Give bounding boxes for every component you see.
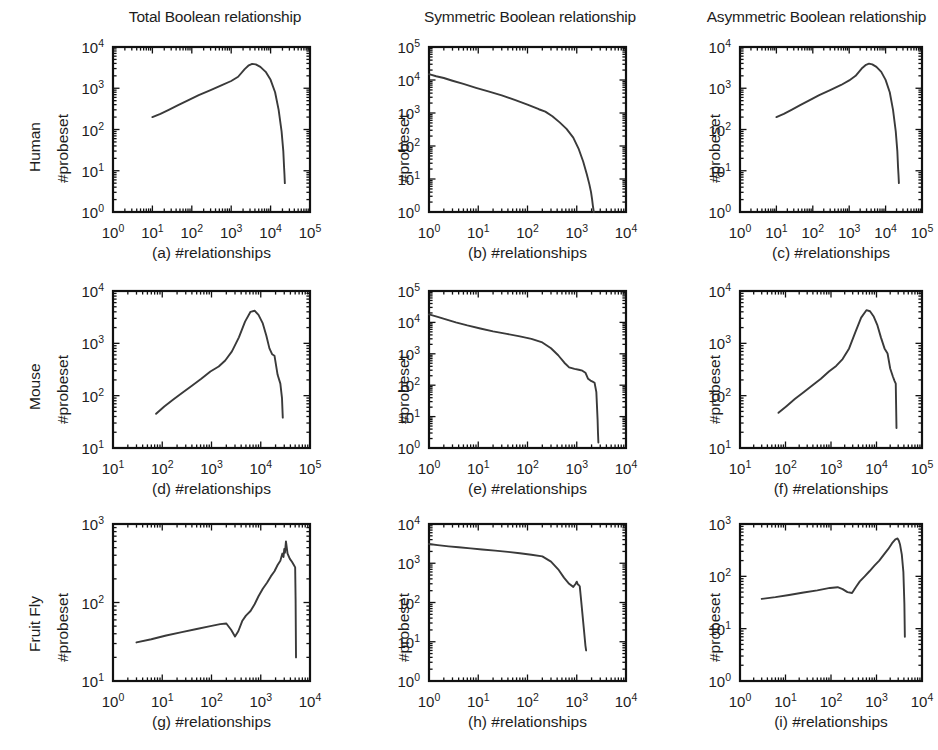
tick-label: 101: [708, 438, 731, 457]
tick-label: 102: [397, 593, 420, 612]
tick-label: 100: [397, 438, 420, 457]
tick-label: 103: [81, 333, 104, 352]
y-tick-labels-a: 100101102103104: [81, 37, 104, 221]
plot-frame-e: [429, 291, 626, 448]
plot-frame-d: [113, 291, 310, 448]
tick-label: 104: [874, 222, 897, 241]
plot-panel-f: 101102103104105101102103104: [680, 277, 938, 486]
tick-label: 100: [418, 691, 441, 710]
tick-label: 100: [418, 458, 441, 477]
minor-ticks-g: [113, 524, 310, 681]
column-title-total: Total Boolean relationship: [100, 8, 330, 26]
column-title-symmetric: Symmetric Boolean relationship: [405, 8, 655, 26]
tick-label: 104: [81, 37, 104, 56]
y-tick-labels-b: 100101102103104105: [397, 37, 420, 221]
tick-label: 105: [299, 458, 322, 477]
tick-label: 101: [774, 691, 797, 710]
tick-label: 101: [397, 407, 420, 426]
tick-label: 104: [249, 458, 272, 477]
y-tick-labels-i: 100101102103: [708, 514, 731, 690]
tick-label: 104: [299, 691, 322, 710]
y-tick-labels-f: 101102103104: [708, 281, 731, 457]
x-tick-labels-h: 100101102103104: [418, 691, 638, 710]
tick-label: 103: [81, 514, 104, 533]
tick-label: 102: [708, 120, 731, 139]
tick-label: 100: [102, 691, 125, 710]
row-label-mouse: Mouse: [26, 363, 44, 410]
minor-ticks-d: [113, 291, 310, 448]
tick-label: 105: [397, 281, 420, 300]
x-tick-labels-b: 100101102103104: [418, 222, 638, 241]
tick-label: 102: [397, 136, 420, 155]
tick-label: 101: [151, 691, 174, 710]
tick-label: 105: [397, 37, 420, 56]
plot-panel-e: 100101102103104100101102103104105: [369, 277, 652, 486]
tick-label: 101: [708, 619, 731, 638]
tick-label: 104: [397, 514, 420, 533]
plot-panel-h: 100101102103104100101102103104: [369, 510, 652, 719]
y-tick-labels-h: 100101102103104: [397, 514, 420, 690]
data-series-g: [137, 541, 297, 657]
plot-panel-c: 100101102103104105100101102103104: [680, 33, 938, 250]
tick-label: 104: [81, 281, 104, 300]
tick-label: 102: [151, 458, 174, 477]
tick-label: 103: [708, 78, 731, 97]
tick-label: 104: [865, 458, 888, 477]
tick-label: 100: [729, 691, 752, 710]
x-tick-labels-d: 101102103104105: [102, 458, 322, 477]
tick-label: 104: [708, 37, 731, 56]
minor-ticks-b: [429, 47, 626, 212]
plot-frame-g: [113, 524, 310, 681]
plot-panel-b: 100101102103104100101102103104105: [369, 33, 652, 250]
tick-label: 104: [708, 281, 731, 300]
tick-label: 102: [516, 222, 539, 241]
tick-label: 103: [820, 458, 843, 477]
tick-label: 100: [708, 202, 731, 221]
x-tick-labels-g: 100101102103104: [102, 691, 322, 710]
column-title-asymmetric: Asymmetric Boolean relationship: [700, 8, 933, 26]
tick-label: 102: [774, 458, 797, 477]
tick-label: 100: [729, 222, 752, 241]
tick-label: 100: [81, 202, 104, 221]
plot-frame-i: [740, 524, 922, 681]
tick-label: 104: [911, 691, 934, 710]
minor-ticks-e: [429, 291, 626, 448]
y-tick-labels-g: 101102103: [81, 514, 104, 690]
data-series-d: [156, 311, 283, 418]
tick-label: 101: [397, 169, 420, 188]
tick-label: 104: [615, 222, 638, 241]
plot-panel-i: 100101102103104100101102103: [680, 510, 938, 719]
x-tick-labels-i: 100101102103104: [729, 691, 934, 710]
tick-label: 104: [259, 222, 282, 241]
tick-label: 101: [397, 632, 420, 651]
plot-frame-b: [429, 47, 626, 212]
tick-label: 102: [397, 375, 420, 394]
tick-label: 101: [141, 222, 164, 241]
data-series-a: [152, 64, 284, 183]
tick-label: 102: [820, 691, 843, 710]
tick-label: 102: [81, 386, 104, 405]
data-series-e: [429, 314, 598, 442]
tick-label: 101: [81, 161, 104, 180]
data-series-c: [776, 64, 899, 184]
plot-panel-d: 101102103104105101102103104: [53, 277, 336, 486]
tick-label: 102: [516, 458, 539, 477]
tick-label: 100: [397, 671, 420, 690]
data-series-h: [429, 544, 586, 651]
tick-label: 103: [838, 222, 861, 241]
data-series-i: [762, 538, 905, 636]
tick-label: 100: [102, 222, 125, 241]
y-tick-labels-e: 100101102103104105: [397, 281, 420, 457]
tick-label: 102: [516, 691, 539, 710]
y-tick-labels-c: 100101102103104: [708, 37, 731, 221]
tick-label: 103: [397, 103, 420, 122]
tick-label: 104: [397, 312, 420, 331]
tick-label: 101: [102, 458, 125, 477]
tick-label: 102: [802, 222, 825, 241]
tick-label: 103: [200, 458, 223, 477]
tick-label: 101: [81, 671, 104, 690]
row-label-fruitfly: Fruit Fly: [26, 596, 44, 652]
x-tick-labels-c: 100101102103104105: [729, 222, 934, 241]
tick-label: 103: [865, 691, 888, 710]
